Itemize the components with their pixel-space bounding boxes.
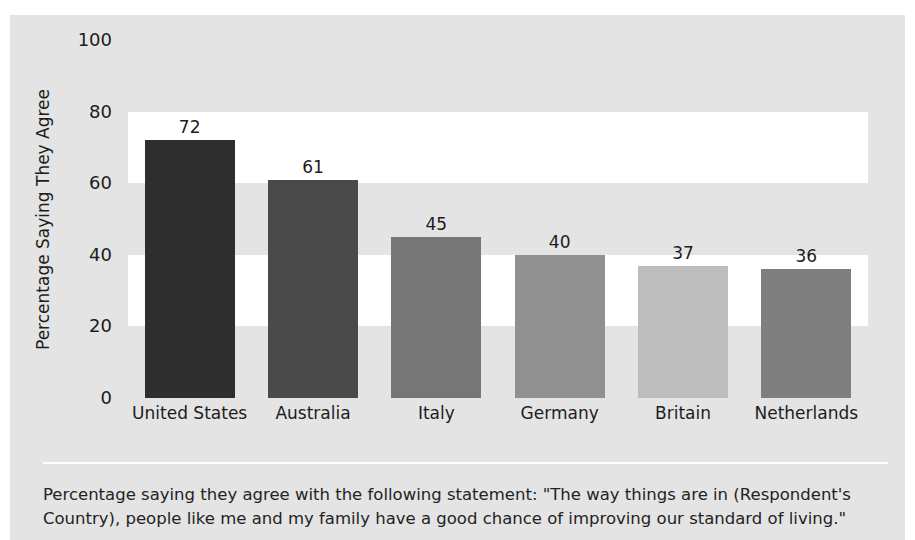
chart-caption: Percentage saying they agree with the fo… xyxy=(43,483,888,531)
bar: 61 xyxy=(268,180,358,398)
figure: Percentage Saying They Agree 02040608010… xyxy=(0,0,915,540)
bar: 37 xyxy=(638,266,728,398)
bar: 72 xyxy=(145,140,235,398)
bar-series: 726145403736 xyxy=(128,40,868,398)
y-axis-tick-label: 0 xyxy=(101,389,112,407)
bar-value-label: 36 xyxy=(796,248,818,265)
y-axis-tick-label: 100 xyxy=(78,31,112,49)
bar: 40 xyxy=(515,255,605,398)
bar-value-label: 37 xyxy=(672,245,694,262)
x-axis-category-label: United States xyxy=(132,405,247,422)
x-axis-category-label: Britain xyxy=(655,405,711,422)
bar-value-label: 40 xyxy=(549,234,571,251)
x-axis-labels: United StatesAustraliaItalyGermanyBritai… xyxy=(128,405,868,435)
bar: 36 xyxy=(761,269,851,398)
plot-area: 726145403736 xyxy=(128,40,868,398)
bar: 45 xyxy=(391,237,481,398)
caption-line-1: Percentage saying they agree with the fo… xyxy=(43,483,888,507)
y-axis-tick-label: 80 xyxy=(89,103,112,121)
bar-value-label: 61 xyxy=(302,159,324,176)
x-axis-category-label: Italy xyxy=(418,405,455,422)
caption-separator xyxy=(43,462,888,464)
y-axis-tick-label: 60 xyxy=(89,174,112,192)
caption-line-2: Country), people like me and my family h… xyxy=(43,507,888,531)
bar-value-label: 72 xyxy=(179,119,201,136)
x-axis-category-label: Netherlands xyxy=(755,405,859,422)
y-axis-tick-label: 40 xyxy=(89,246,112,264)
x-axis-category-label: Australia xyxy=(275,405,350,422)
y-axis-tick-label: 20 xyxy=(89,317,112,335)
bar-value-label: 45 xyxy=(426,216,448,233)
x-axis-category-label: Germany xyxy=(521,405,599,422)
chart-panel: Percentage Saying They Agree 02040608010… xyxy=(10,15,905,540)
bar-chart: Percentage Saying They Agree 02040608010… xyxy=(10,15,905,462)
y-axis-ticks: 020406080100 xyxy=(10,40,122,398)
